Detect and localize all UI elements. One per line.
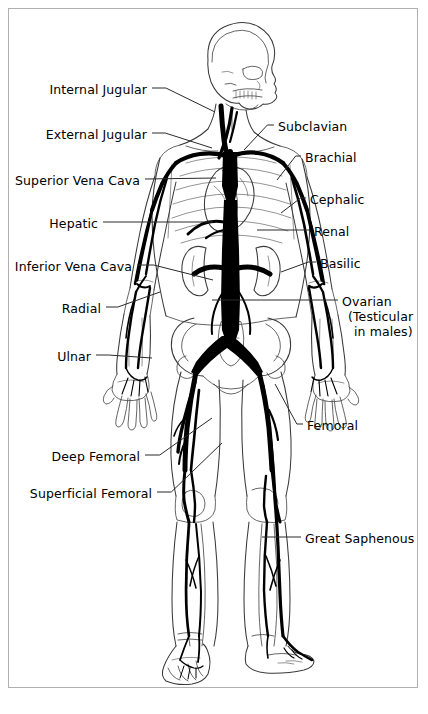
label-femoral[interactable]: Femoral: [307, 418, 358, 433]
label-basilic[interactable]: Basilic: [320, 256, 361, 271]
label-superficial-femoral[interactable]: Superficial Femoral: [30, 486, 152, 501]
label-ovarian-line-1: Ovarian: [342, 294, 413, 309]
leader-line-femoral: [275, 384, 303, 424]
leader-line-internal-jugular: [152, 88, 215, 112]
label-inferior-vena-cava[interactable]: Inferior Vena Cava: [15, 259, 132, 274]
label-external-jugular[interactable]: External Jugular: [46, 127, 147, 142]
label-subclavian[interactable]: Subclavian: [278, 119, 347, 134]
label-renal[interactable]: Renal: [314, 224, 349, 239]
leader-line-brachial: [277, 156, 301, 180]
label-deep-femoral[interactable]: Deep Femoral: [52, 449, 140, 464]
label-great-saphenous[interactable]: Great Saphenous: [305, 531, 414, 546]
label-ovarian-line-3: in males): [342, 324, 413, 339]
leader-line-radial: [106, 292, 160, 307]
label-internal-jugular[interactable]: Internal Jugular: [50, 82, 148, 97]
label-ovarian[interactable]: Ovarian(Testicularin males): [342, 294, 413, 339]
leader-line-ulnar: [96, 355, 152, 358]
leader-line-external-jugular: [152, 133, 212, 148]
label-hepatic[interactable]: Hepatic: [49, 216, 98, 231]
leader-line-inferior-vena-cava: [137, 265, 213, 280]
label-ulnar[interactable]: Ulnar: [57, 349, 91, 364]
leader-line-basilic: [281, 262, 316, 272]
anatomy-diagram: .o { fill:none; stroke:#3a3a3a; stroke-w…: [0, 0, 428, 714]
label-radial[interactable]: Radial: [62, 301, 101, 316]
leader-line-deep-femoral: [145, 418, 212, 455]
label-ovarian-line-2: (Testicular: [342, 309, 413, 324]
leader-line-subclavian: [244, 125, 274, 150]
label-cephalic[interactable]: Cephalic: [310, 192, 365, 207]
label-brachial[interactable]: Brachial: [305, 150, 357, 165]
leader-line-superior-vena-cava: [145, 178, 216, 179]
leader-line-cephalic: [281, 198, 306, 213]
label-superior-vena-cava[interactable]: Superior Vena Cava: [15, 173, 140, 188]
